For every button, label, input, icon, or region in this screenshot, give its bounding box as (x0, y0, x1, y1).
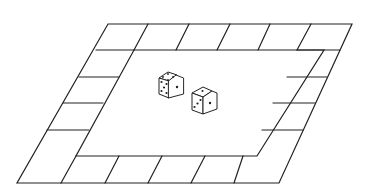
game-board (17, 24, 352, 183)
right-column-dividers (262, 50, 340, 130)
board-game-diagram (0, 0, 371, 195)
bottom-row-dividers (61, 156, 243, 183)
die-2 (192, 87, 217, 114)
left-column-dividers (47, 50, 134, 130)
die-1 (159, 72, 184, 98)
top-row-dividers (134, 24, 311, 50)
